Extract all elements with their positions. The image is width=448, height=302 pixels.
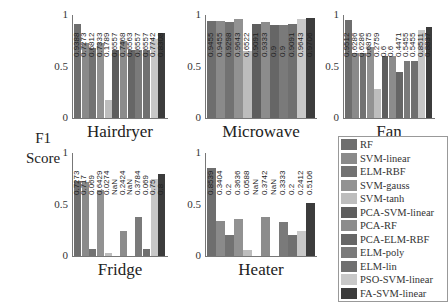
legend-item: ELM-poly — [341, 246, 445, 260]
bar-svm-tanh — [243, 250, 252, 256]
bar-pso-svm-linear — [297, 231, 306, 256]
bar-fa-svm-linear — [306, 203, 315, 256]
bar-elm-lin — [143, 50, 150, 118]
bar-value-label: 0.2 — [287, 184, 296, 195]
bar-value-label: NaN — [269, 179, 278, 195]
bar-elm-poly — [404, 61, 411, 118]
bar-value-label: 0.8539 — [206, 170, 215, 194]
legend-label: ELM-poly — [360, 247, 404, 258]
bar-value-label: 0.9455 — [215, 32, 224, 56]
bar-elm-poly — [135, 217, 142, 256]
bar-value-label: 0.5106 — [305, 170, 314, 194]
panel-title: Fridge — [72, 260, 168, 280]
y-tick-label: 0.5 — [183, 198, 201, 210]
bar-value-label: 0.9643 — [296, 32, 305, 56]
legend-swatch — [341, 193, 357, 204]
bar-pca-svm-linear — [112, 50, 119, 118]
y-tick-label: 0 — [50, 249, 68, 261]
bar-value-label: 0.6522 — [242, 32, 251, 56]
legend-label: RF — [360, 139, 373, 150]
y-tick-label: 0 — [183, 111, 201, 123]
bar-elm-rbf — [89, 249, 96, 256]
bar-value-label: 0.9 — [269, 46, 278, 57]
legend-item: SVM-gauss — [341, 179, 445, 193]
bar-elm-lin — [288, 235, 297, 256]
y-tick-label: 0.5 — [183, 60, 201, 72]
bar-elm-rbf — [89, 48, 96, 118]
bar-value-label: 0.9298 — [224, 32, 233, 56]
y-tick-label: 1 — [50, 8, 68, 20]
y-tick-label: 0.5 — [321, 60, 339, 72]
bar-value-label: 0.3404 — [215, 170, 224, 194]
legend-swatch — [341, 180, 357, 191]
legend: RFSVM-linearELM-RBFSVM-gaussSVM-tanhPCA-… — [338, 136, 448, 302]
bar-elm-poly — [135, 50, 142, 118]
y-axis — [72, 15, 73, 118]
legend-label: ELM-lin — [360, 261, 397, 272]
panel-hairdryer: 00.510.93880.72730.68120.73330.17890.655… — [72, 15, 168, 118]
legend-label: PCA-ELM-RBF — [360, 234, 429, 245]
bar-value-label: NaN — [251, 179, 260, 195]
bar-svm-linear — [352, 53, 359, 118]
bar-value-label: 0.3742 — [260, 170, 269, 194]
bar-svm-tanh — [105, 100, 112, 118]
y-tick-label: 0 — [321, 111, 339, 123]
bar-svm-tanh — [374, 89, 381, 118]
bar-svm-tanh — [243, 51, 252, 118]
bar-elm-poly — [279, 222, 288, 256]
legend-item: RF — [341, 138, 445, 152]
y-axis — [205, 153, 206, 256]
bar-value-label: 0.9091 — [287, 32, 296, 56]
bar-value-label: 0.9706 — [305, 32, 314, 56]
legend-label: ELM-RBF — [360, 166, 406, 177]
panel-fan: 00.510.95120.62860.62860.68750.27590.60.… — [343, 15, 435, 118]
bar-value-label: 0.3333 — [278, 170, 287, 194]
legend-label: PCA-SVM-linear — [360, 207, 434, 218]
y-axis — [72, 153, 73, 256]
legend-item: PCA-RF — [341, 219, 445, 233]
legend-label: PSO-SVM-linear — [360, 274, 433, 285]
panel-microwave: 00.510.94550.94550.92980.96430.65220.909… — [205, 15, 317, 118]
bar-svm-gauss — [234, 219, 243, 256]
bar-value-label: 0.9643 — [233, 32, 242, 56]
x-axis — [343, 118, 435, 119]
legend-swatch — [341, 153, 357, 164]
legend-swatch — [341, 166, 357, 177]
x-axis — [205, 118, 317, 119]
legend-item: ELM-RBF — [341, 165, 445, 179]
legend-item: PCA-SVM-linear — [341, 206, 445, 220]
legend-item: PSO-SVM-linear — [341, 273, 445, 287]
bar-value-label: 0.2 — [224, 184, 233, 195]
panel-title: Heater — [205, 260, 317, 280]
legend-item: FA-SVM-linear — [341, 287, 445, 301]
legend-swatch — [341, 261, 357, 272]
legend-swatch — [341, 274, 357, 285]
y-tick-label: 1 — [50, 146, 68, 158]
legend-swatch — [341, 247, 357, 258]
bar-elm-rbf — [360, 53, 367, 118]
y-tick-label: 0.5 — [50, 198, 68, 210]
panel-fridge: 00.510.72730.7170.0690.64290.0274NaN0.24… — [72, 153, 168, 256]
legend-swatch — [341, 139, 357, 150]
legend-item: PCA-ELM-RBF — [341, 233, 445, 247]
x-axis — [72, 118, 168, 119]
legend-swatch — [341, 288, 357, 299]
legend-swatch — [341, 207, 357, 218]
bar-value-label: 0.9091 — [251, 32, 260, 56]
bar-pca-rf — [261, 217, 270, 256]
bar-pca-elm-rbf — [270, 25, 279, 118]
x-axis — [205, 256, 317, 257]
bar-svm-linear — [216, 221, 225, 256]
legend-label: PCA-RF — [360, 220, 397, 231]
legend-label: SVM-gauss — [360, 180, 410, 191]
bar-elm-lin — [143, 249, 150, 256]
legend-label: SVM-linear — [360, 153, 410, 164]
y-axis — [205, 15, 206, 118]
legend-item: SVM-tanh — [341, 192, 445, 206]
y-tick-label: 0.5 — [50, 60, 68, 72]
bar-value-label: 0.2412 — [296, 170, 305, 194]
bar-value-label: 0.9 — [278, 46, 287, 57]
bar-value-label: 0.8 — [156, 184, 165, 195]
y-tick-label: 0 — [183, 249, 201, 261]
bar-elm-rbf — [225, 235, 234, 256]
